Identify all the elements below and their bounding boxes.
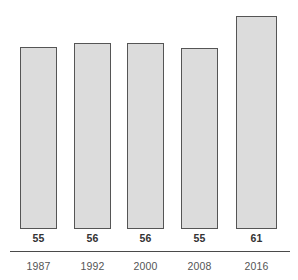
bar bbox=[127, 43, 164, 229]
category-label-row: 19871992200020082016 bbox=[0, 259, 298, 277]
bar-group bbox=[181, 48, 218, 229]
bar bbox=[181, 48, 218, 229]
category-label: 1992 bbox=[74, 259, 111, 274]
bar-group bbox=[127, 43, 164, 229]
bar-value-label: 55 bbox=[20, 231, 57, 246]
category-label: 2016 bbox=[236, 259, 277, 274]
bar-value-label: 56 bbox=[74, 231, 111, 246]
bar-chart: 5556565561 19871992200020082016 bbox=[0, 0, 298, 280]
bar-group bbox=[20, 47, 57, 229]
bar-group bbox=[74, 43, 111, 229]
bar bbox=[74, 43, 111, 229]
bar-value-label: 61 bbox=[236, 231, 277, 246]
x-axis-line bbox=[10, 251, 290, 252]
bar-value-label: 55 bbox=[181, 231, 218, 246]
bar bbox=[20, 47, 57, 229]
bar bbox=[236, 16, 277, 229]
category-label: 1987 bbox=[20, 259, 57, 274]
bar-group bbox=[236, 16, 277, 229]
category-label: 2008 bbox=[181, 259, 218, 274]
category-label: 2000 bbox=[127, 259, 164, 274]
plot-area bbox=[0, 0, 298, 229]
bar-value-label: 56 bbox=[127, 231, 164, 246]
value-label-row: 5556565561 bbox=[0, 231, 298, 249]
